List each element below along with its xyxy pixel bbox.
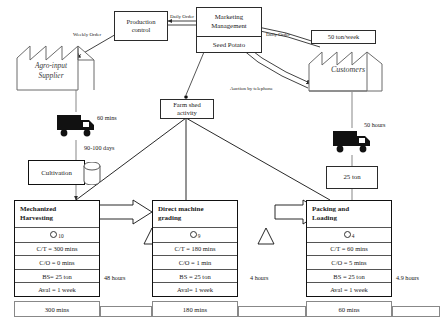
daily-order-right-label: Daily Order xyxy=(266,32,290,38)
marketing-management-box[interactable]: Marketing Management Seed Potato xyxy=(196,7,262,53)
timeline-gap-3 xyxy=(392,306,440,317)
production-control-line1: Production xyxy=(127,18,156,25)
lead-time-label-3: 4.9 hours xyxy=(396,275,419,282)
operator-icon xyxy=(50,231,57,238)
process-metric-co: C/O = 1 min xyxy=(153,256,237,270)
operator-count: 9 xyxy=(153,228,237,243)
process-metric-bs: BS = 25 ton xyxy=(307,270,391,284)
process-metric-aval: Aval = 1 week xyxy=(307,283,391,296)
process-box-direct-machine-grading[interactable]: Direct machine grading 9 C/T = 180 mins … xyxy=(152,200,238,297)
cultivation-lead-time-label: 90-100 days xyxy=(84,145,114,152)
farm-shed-activity-box[interactable]: Farm shed activity xyxy=(160,99,214,119)
process-metric-bs: BS= 25 ton xyxy=(15,270,99,284)
operator-count: 4 xyxy=(307,228,391,243)
outbound-truck-icon xyxy=(332,128,374,155)
process-metric-aval: Aval = 1 week xyxy=(15,283,99,296)
process-metric-ct: C/T = 180 mins xyxy=(153,243,237,257)
process-metric-bs: BS = 25 ton xyxy=(153,270,237,284)
timeline-cycle-time-3: 60 mins xyxy=(306,301,392,317)
process-title: Mechanized Harvesting xyxy=(15,201,99,228)
daily-order-top-label: Daily Order xyxy=(170,14,194,20)
lead-time-label-1: 48 hours xyxy=(104,275,125,282)
seed-potato-label: Seed Potato xyxy=(213,41,245,48)
marketing-line1: Marketing xyxy=(215,13,243,20)
process-title: Direct machine grading xyxy=(153,201,237,228)
operator-icon xyxy=(344,231,351,238)
farm-shed-line2: activity xyxy=(177,109,197,116)
timeline-gap-1 xyxy=(100,306,152,317)
production-control-box[interactable]: Production control xyxy=(114,11,168,41)
cultivation-label: Cultivation xyxy=(41,169,72,176)
marketing-line2: Management xyxy=(211,22,246,29)
agro-input-supplier: Agro-input Supplier xyxy=(14,36,110,91)
value-stream-map: Agro-input Supplier Production control M… xyxy=(0,0,448,331)
timeline-cycle-time-1: 300 mins xyxy=(14,301,100,317)
process-title: Packing and Loading xyxy=(307,201,391,228)
shipment-quantity-value: 25 ton xyxy=(343,173,360,182)
process-metric-ct: C/T = 60 mins xyxy=(307,243,391,257)
timeline-gap-2 xyxy=(238,306,306,317)
database-cylinder-icon xyxy=(83,162,101,189)
customers: Customers xyxy=(306,44,390,92)
customers-label: Customers xyxy=(331,65,365,74)
process-metric-co: C/O = 5 mins xyxy=(307,256,391,270)
operator-icon xyxy=(190,231,197,238)
process-metric-ct: C/T = 300 mins xyxy=(15,243,99,257)
supplier-label-line1: Agro-input xyxy=(35,61,67,70)
operator-count: 10 xyxy=(15,228,99,243)
demand-rate-box: 50 ton/week xyxy=(311,30,376,44)
cultivation-box[interactable]: Cultivation xyxy=(28,160,85,185)
auction-label: Auction by telephone xyxy=(230,86,273,92)
seed-potato-row: Seed Potato xyxy=(197,37,261,52)
weekly-order-label: Weekly Order xyxy=(73,32,101,38)
process-metric-aval: Aval= 1 week xyxy=(153,283,237,296)
supplier-lead-time-label: 60 mins xyxy=(97,115,117,122)
inbound-truck-icon xyxy=(56,112,98,139)
process-metric-co: C/O = 0 mins xyxy=(15,256,99,270)
farm-shed-line1: Farm shed xyxy=(173,101,201,108)
process-box-packing-and-loading[interactable]: Packing and Loading 4 C/T = 60 mins C/O … xyxy=(306,200,392,297)
shipment-quantity-box: 25 ton xyxy=(326,166,378,189)
lead-time-label-2: 4 hours xyxy=(250,275,268,282)
production-control-line2: control xyxy=(132,26,151,33)
process-box-mechanized-harvesting[interactable]: Mechanized Harvesting 10 C/T = 300 mins … xyxy=(14,200,100,297)
demand-rate-value: 50 ton/week xyxy=(328,33,359,41)
timeline-cycle-time-2: 180 mins xyxy=(152,301,238,317)
supplier-label-line2: Supplier xyxy=(38,71,63,80)
